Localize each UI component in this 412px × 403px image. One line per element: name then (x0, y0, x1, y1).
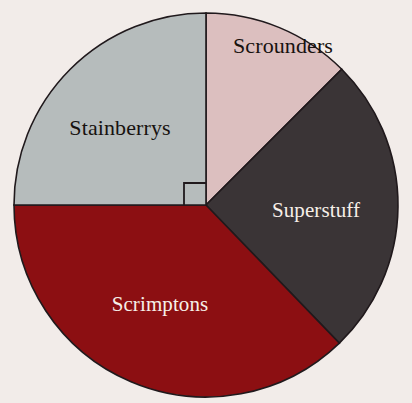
pie-slice-stainberrys[interactable] (14, 13, 206, 205)
pie-chart-figure: Scrounders Superstuff Scrimptons Stainbe… (0, 0, 412, 403)
pie-chart-svg (0, 0, 412, 403)
